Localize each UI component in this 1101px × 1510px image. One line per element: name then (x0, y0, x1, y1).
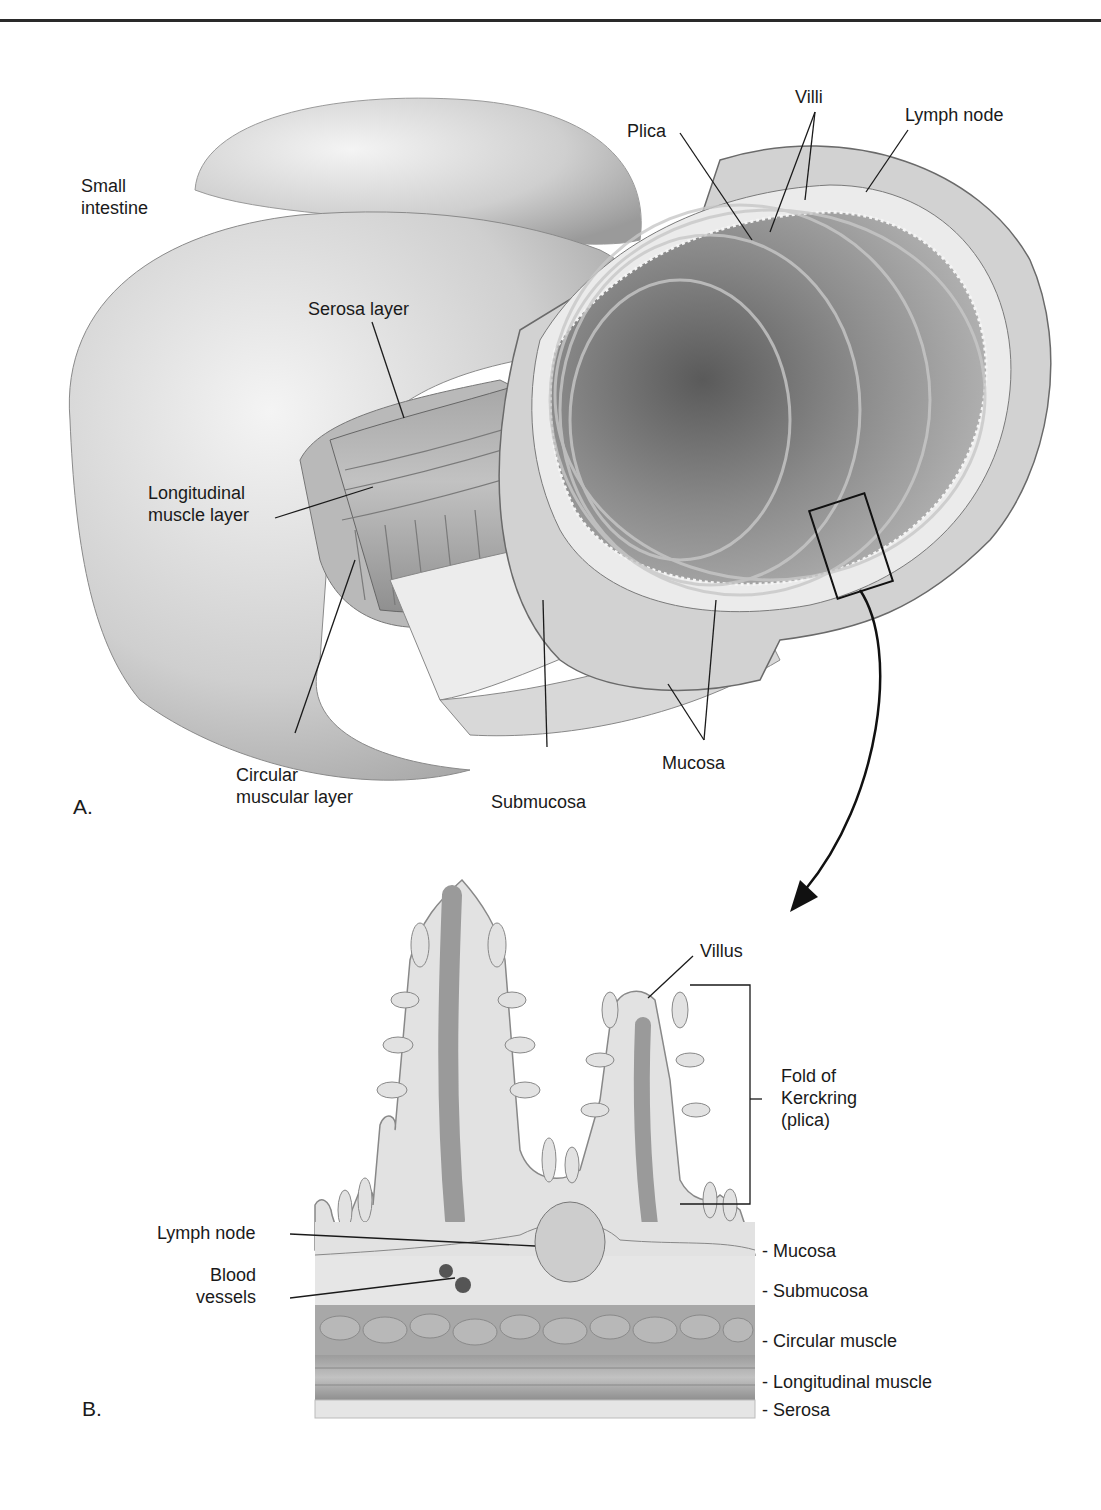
label-serosa-layer: Serosa layer (308, 298, 409, 320)
label-fold-of-kerckring: Fold of Kerckring (plica) (781, 1065, 857, 1131)
panel-b-letter: B. (82, 1397, 102, 1421)
label-layer-longitudinal-muscle: - Longitudinal muscle (762, 1371, 932, 1393)
label-mucosa: Mucosa (662, 752, 725, 774)
lymph-node-b (535, 1202, 605, 1282)
blood-vessel-2 (455, 1277, 471, 1293)
label-plica: Plica (627, 120, 666, 142)
label-layer-circular-muscle: - Circular muscle (762, 1330, 897, 1352)
label-lymph-node-a: Lymph node (905, 104, 1003, 126)
label-layer-mucosa: - Mucosa (762, 1240, 836, 1262)
villi-section (315, 880, 755, 1255)
label-lymph-node-b: Lymph node (157, 1222, 255, 1244)
label-circular-muscular-layer: Circular muscular layer (236, 764, 353, 808)
label-layer-serosa: - Serosa (762, 1399, 830, 1421)
plica-bracket (680, 985, 750, 1204)
panel-a-letter: A. (73, 795, 93, 819)
blood-vessel-1 (439, 1264, 453, 1278)
label-villus: Villus (700, 940, 743, 962)
label-villi: Villi (795, 86, 823, 108)
label-small-intestine: Small intestine (81, 175, 148, 219)
label-layer-submucosa: - Submucosa (762, 1280, 868, 1302)
label-longitudinal-muscle-layer: Longitudinal muscle layer (148, 482, 249, 526)
label-blood-vessels: Blood vessels (146, 1264, 256, 1308)
wall-layers (315, 1202, 755, 1418)
label-submucosa: Submucosa (491, 791, 586, 813)
